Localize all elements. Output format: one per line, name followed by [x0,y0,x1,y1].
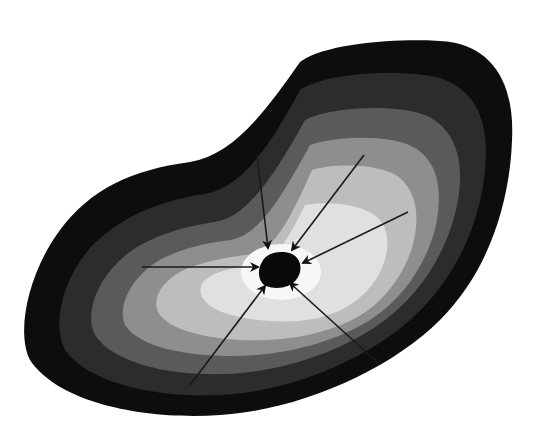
gradient-region-diagram [0,0,540,434]
